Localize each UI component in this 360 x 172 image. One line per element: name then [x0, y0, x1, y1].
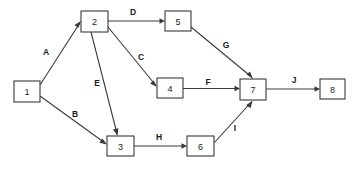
- edge-H-label: H: [156, 132, 162, 142]
- edge-H: H: [134, 132, 187, 149]
- edge-C-line: [108, 27, 156, 85]
- node-8[interactable]: 8: [320, 79, 345, 99]
- edge-B-label: B: [72, 109, 78, 119]
- edge-D-arrowhead: [160, 18, 166, 23]
- node-6-label: 6: [198, 142, 203, 152]
- edge-F-arrowhead: [235, 86, 241, 91]
- edge-A-arrowhead: [74, 21, 81, 28]
- edge-E-label: E: [94, 78, 100, 88]
- node-1[interactable]: 1: [14, 81, 40, 102]
- edge-C-label: C: [138, 52, 144, 62]
- node-3[interactable]: 3: [107, 136, 134, 156]
- node-6[interactable]: 6: [187, 136, 214, 156]
- edge-J: J: [266, 75, 320, 92]
- edge-C-arrowhead: [150, 80, 157, 87]
- edge-F-label: F: [205, 77, 210, 87]
- network-diagram: A B C D: [0, 0, 360, 172]
- node-7[interactable]: 7: [240, 79, 266, 100]
- edge-A-label: A: [43, 47, 49, 57]
- node-5-label: 5: [175, 17, 180, 27]
- edge-B: B: [40, 96, 107, 145]
- edge-E-arrowhead: [113, 128, 118, 136]
- edge-I-label: I: [234, 123, 236, 133]
- edge-D-label: D: [130, 7, 136, 17]
- edge-D: D: [108, 7, 165, 24]
- node-3-label: 3: [118, 142, 123, 152]
- edge-J-label: J: [292, 75, 297, 85]
- edge-H-arrowhead: [182, 143, 188, 148]
- edge-C: C: [108, 27, 157, 87]
- edge-G-label: G: [223, 40, 230, 50]
- edge-B-line: [40, 96, 105, 143]
- node-4[interactable]: 4: [157, 78, 183, 98]
- edge-I-line: [214, 103, 251, 143]
- node-5[interactable]: 5: [165, 11, 191, 31]
- edge-G: G: [191, 27, 253, 79]
- node-1-label: 1: [24, 87, 29, 97]
- edge-G-arrowhead: [247, 71, 254, 79]
- node-7-label: 7: [250, 85, 255, 95]
- edge-E: E: [91, 32, 118, 136]
- edge-G-line: [191, 27, 251, 77]
- node-4-label: 4: [167, 84, 172, 94]
- node-2-label: 2: [92, 17, 97, 27]
- edge-A: A: [40, 21, 81, 85]
- edge-I: I: [214, 101, 253, 144]
- diagram-canvas: A B C D: [0, 0, 360, 172]
- node-2[interactable]: 2: [81, 11, 108, 32]
- edge-J-arrowhead: [315, 86, 321, 91]
- node-8-label: 8: [330, 85, 335, 95]
- edge-F: F: [183, 77, 240, 91]
